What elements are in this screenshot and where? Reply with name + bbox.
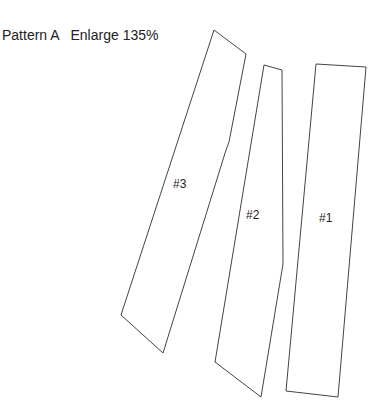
pattern-pieces-canvas xyxy=(0,0,383,418)
pattern-piece-1 xyxy=(286,64,366,397)
pattern-piece-3 xyxy=(121,30,246,353)
piece-label-2: #2 xyxy=(246,208,259,222)
pattern-piece-2 xyxy=(215,65,283,397)
piece-label-3: #3 xyxy=(173,177,186,191)
piece-label-1: #1 xyxy=(319,211,332,225)
